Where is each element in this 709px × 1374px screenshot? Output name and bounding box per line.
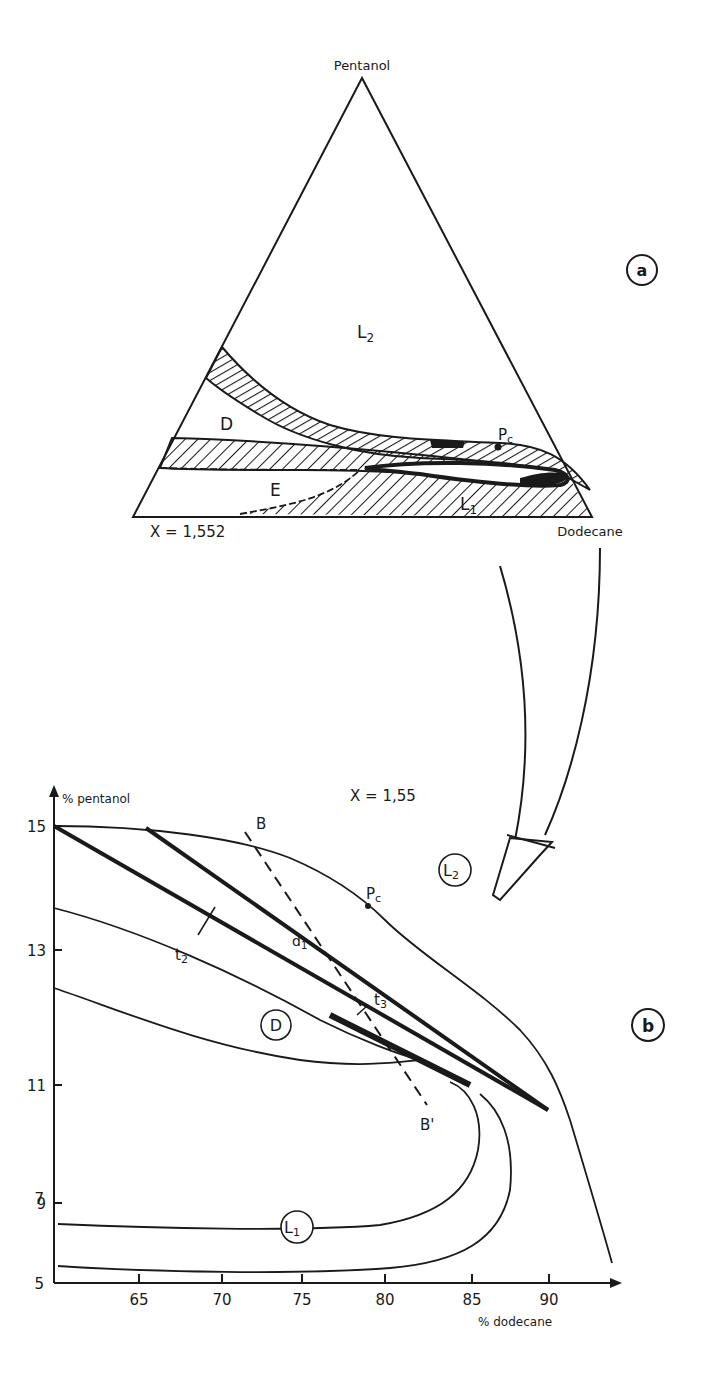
panel-label-b: b [642, 1016, 654, 1036]
vertex-label-pentanol: Pentanol [334, 58, 390, 73]
x-ticks: 65 70 75 80 85 90 [129, 1274, 558, 1309]
figure-canvas: Pentanol Dodecane X = 1,552 L2 D E L1 Pc… [0, 0, 709, 1374]
x-tick-label: 90 [539, 1291, 558, 1309]
label-t2: t2 [175, 946, 188, 966]
vertex-label-dodecane: Dodecane [557, 524, 623, 539]
critical-point-marker [495, 444, 502, 451]
y-tick-label: 11 [27, 1077, 46, 1095]
x-tick-label: 80 [375, 1291, 394, 1309]
y-axis-arrow-icon [49, 785, 59, 797]
region-label-e: E [270, 480, 281, 500]
x-tick-label: 85 [462, 1291, 481, 1309]
y-tick-label: 9 [36, 1195, 46, 1213]
region-label-l2-b: L2 [443, 861, 459, 882]
x-tick-label: 65 [129, 1291, 148, 1309]
critical-point-label-b: Pc [366, 885, 381, 905]
arrow-head-icon [493, 838, 552, 900]
label-b: B [256, 815, 266, 833]
enlargement-arrow [493, 548, 600, 900]
l1-inner-boundary [58, 1082, 479, 1229]
y-ticks: 5 7 [34, 826, 62, 1293]
x-value-label-a: X = 1,552 [150, 523, 225, 541]
d-lower-boundary [54, 988, 420, 1064]
x-value-label-b: X = 1,55 [350, 787, 416, 805]
panel-label-a: a [637, 261, 648, 280]
y-tick-label: 5 [34, 1275, 44, 1293]
l1-outer-boundary [58, 1094, 511, 1272]
enlarged-chart: 5 7 65 70 75 80 85 90 15 13 11 9 % penta… [27, 785, 664, 1329]
x-axis-label: % dodecane [478, 1315, 552, 1329]
x-tick-label: 75 [292, 1291, 311, 1309]
critical-point-label: Pc [498, 426, 513, 446]
dark-bar [430, 440, 465, 448]
y-tick-label: 13 [27, 942, 46, 960]
label-b-prime: B' [420, 1116, 434, 1134]
label-d1: d1 [292, 933, 307, 951]
y-axis-label: % pentanol [62, 792, 130, 806]
critical-point-marker-b [365, 903, 371, 909]
x-axis-arrow-icon [610, 1278, 622, 1288]
region-label-d-b: D [270, 1016, 282, 1035]
l2-outer-boundary [54, 826, 612, 1263]
region-label-d: D [220, 414, 233, 434]
region-label-l2: L2 [357, 322, 374, 345]
tie-line-upper [146, 828, 548, 1110]
y-tick-label: 15 [27, 818, 46, 836]
tie-line-t2 [54, 826, 548, 1110]
x-tick-label: 70 [212, 1291, 231, 1309]
ternary-diagram: Pentanol Dodecane X = 1,552 L2 D E L1 Pc… [133, 58, 657, 541]
